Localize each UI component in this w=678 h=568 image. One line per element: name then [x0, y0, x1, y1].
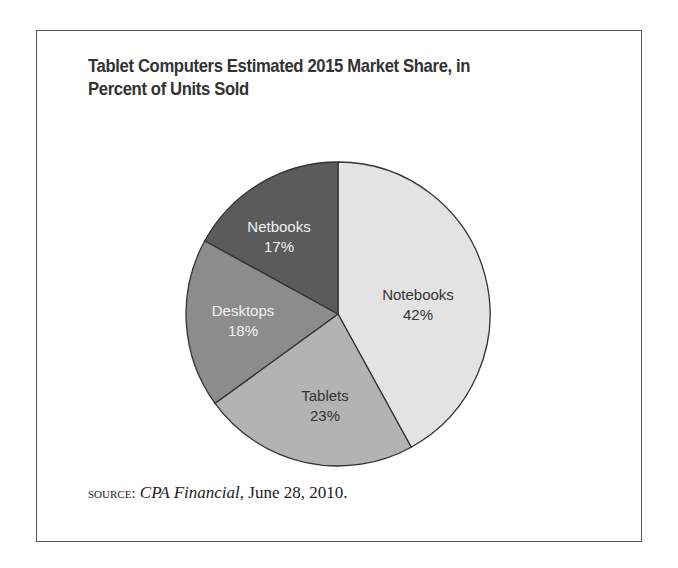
pie-chart: Notebooks42%Tablets23%Desktops18%Netbook…	[0, 0, 678, 568]
